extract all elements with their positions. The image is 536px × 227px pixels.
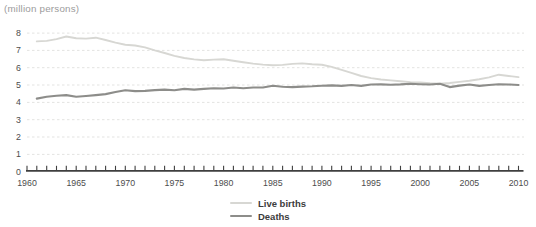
legend-label-live-births: Live births: [258, 198, 306, 209]
line-chart: 0123456781960196519701975198019851990199…: [0, 0, 536, 192]
x-axis-label: 2000: [410, 178, 430, 188]
series-line-live-births: [37, 37, 519, 84]
x-axis-label: 1960: [17, 178, 37, 188]
x-axis-label: 1985: [263, 178, 283, 188]
live-births-line-swatch: [230, 202, 252, 205]
deaths-line-swatch: [230, 215, 252, 218]
x-axis-label: 1965: [66, 178, 86, 188]
y-axis-label: 4: [16, 97, 21, 107]
y-axis-label: 7: [16, 45, 21, 55]
y-axis-label: 0: [16, 167, 21, 177]
y-axis-label: 8: [16, 28, 21, 38]
legend-item-deaths: Deaths: [230, 210, 306, 222]
y-axis-label: 6: [16, 63, 21, 73]
x-axis-label: 1970: [116, 178, 136, 188]
y-axis-label: 5: [16, 80, 21, 90]
chart-frame: (million persons) 0123456781960196519701…: [0, 0, 536, 227]
legend-item-live-births: Live births: [230, 197, 306, 209]
x-axis-label: 2010: [509, 178, 529, 188]
legend-label-deaths: Deaths: [258, 211, 290, 222]
x-axis-label: 1995: [361, 178, 381, 188]
y-axis-label: 2: [16, 132, 21, 142]
x-axis-label: 1975: [165, 178, 185, 188]
x-axis-label: 1990: [312, 178, 332, 188]
y-axis-label: 3: [16, 115, 21, 125]
x-axis-label: 2005: [460, 178, 480, 188]
legend: Live births Deaths: [0, 197, 536, 222]
x-axis-label: 1980: [214, 178, 234, 188]
legend-items: Live births Deaths: [230, 197, 306, 222]
y-axis-label: 1: [16, 149, 21, 159]
series-line-deaths: [37, 84, 519, 99]
